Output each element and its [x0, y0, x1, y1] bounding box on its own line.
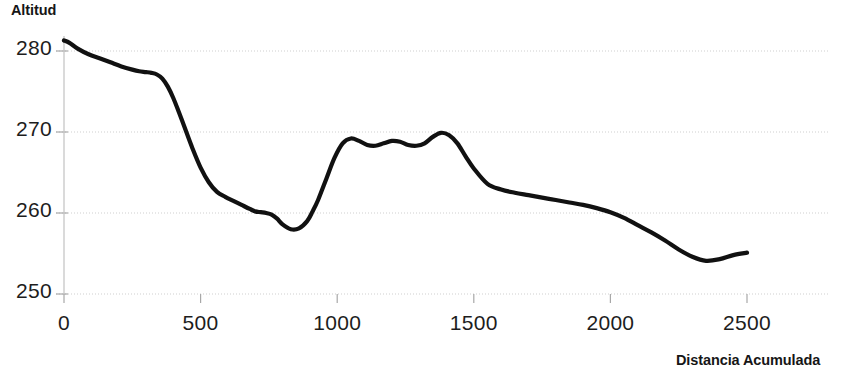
- altitude-series-line: [64, 40, 747, 260]
- plot-area: [0, 0, 858, 376]
- tick-marks: [56, 51, 747, 303]
- altitude-profile-chart: Altitud Distancia Acumulada 250260270280…: [0, 0, 858, 376]
- gridlines: [56, 51, 830, 294]
